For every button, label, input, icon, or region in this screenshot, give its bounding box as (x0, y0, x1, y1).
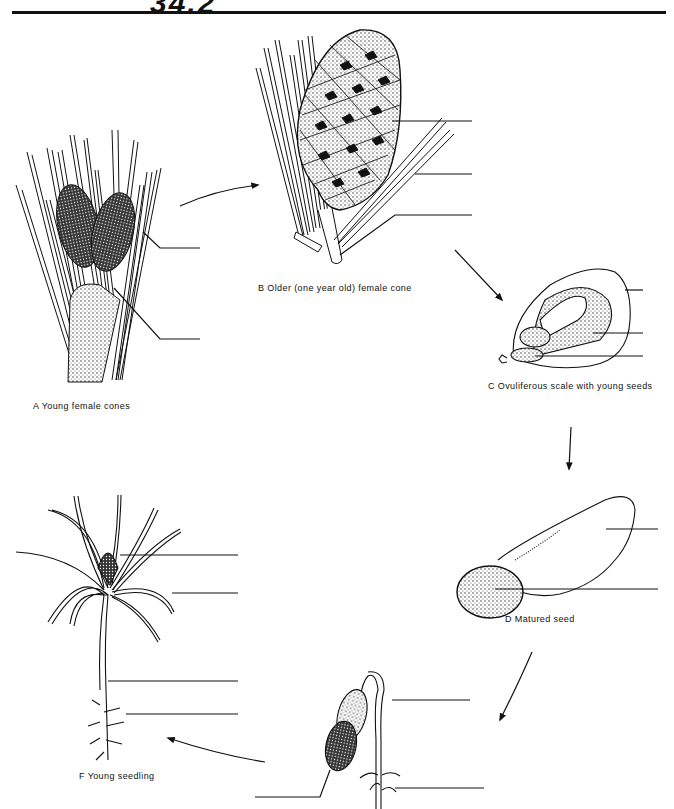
panel-e-germinating-seed (255, 672, 484, 809)
caption-b: B Older (one year old) female cone (258, 283, 412, 293)
arrow-e-to-f (168, 738, 265, 762)
panel-c-ovuliferous-scale (499, 269, 643, 368)
caption-d: D Matured seed (505, 614, 575, 624)
caption-f: F Young seedling (79, 771, 154, 781)
panel-a-young-female-cones (16, 130, 200, 382)
caption-c: C Ovuliferous scale with young seeds (488, 381, 652, 391)
arrow-c-to-d (569, 427, 571, 469)
caption-a: A Young female cones (33, 401, 130, 411)
arrow-b-to-c (455, 250, 502, 300)
arrow-d-to-e (500, 652, 532, 720)
panel-d-matured-seed (457, 497, 658, 618)
arrow-a-to-b (180, 185, 258, 206)
panel-f-young-seedling (16, 495, 238, 760)
panel-b-older-female-cone (256, 30, 472, 264)
